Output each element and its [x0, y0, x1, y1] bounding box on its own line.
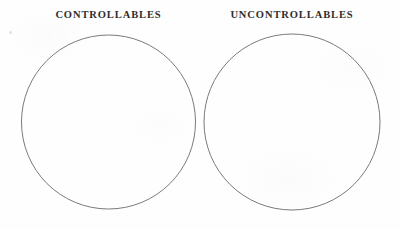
uncontrollables-circle[interactable]: [204, 34, 380, 210]
circles-layer: [0, 0, 400, 229]
controllables-circle[interactable]: [22, 35, 196, 209]
worksheet-canvas: CONTROLLABLES UNCONTROLLABLES: [0, 0, 400, 229]
